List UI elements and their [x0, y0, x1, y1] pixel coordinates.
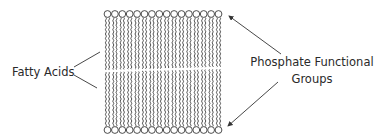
- fatty-acid-tail: [168, 18, 169, 69]
- top-phospholipid: [141, 11, 148, 69]
- fatty-acid-tail: [153, 18, 154, 69]
- phosphate-groups-label-line2: Groups: [291, 72, 332, 86]
- fatty-acid-tail: [138, 18, 139, 70]
- fatty-acid-tail: [202, 70, 203, 127]
- phosphate-head: [141, 127, 148, 134]
- bottom-phospholipid: [171, 70, 178, 133]
- fatty-acid-tail: [179, 70, 180, 126]
- phosphate-head: [112, 127, 119, 134]
- phosphate-head: [112, 11, 119, 18]
- fatty-acid-tail: [120, 18, 121, 70]
- phosphate-head: [178, 11, 185, 18]
- phosphate-head: [163, 11, 170, 18]
- fatty-acid-tail: [172, 18, 173, 69]
- phosphate-head: [208, 127, 215, 134]
- fatty-acid-tail: [165, 18, 166, 69]
- phosphate-head: [141, 11, 148, 18]
- phosphate-head: [149, 127, 156, 134]
- fatty-acid-tail: [205, 18, 206, 68]
- top-phospholipid: [200, 11, 207, 68]
- fatty-acid-tail: [202, 18, 203, 68]
- bottom-phospholipid: [193, 70, 200, 134]
- phosphate-head: [119, 127, 126, 134]
- phosphate-head: [193, 11, 200, 18]
- fatty-acid-tail: [142, 18, 143, 69]
- fatty-acid-tail: [175, 70, 176, 126]
- phosphate-head: [163, 127, 170, 134]
- top-phospholipid: [163, 11, 170, 69]
- top-phospholipid: [126, 11, 133, 70]
- fatty-acid-tail: [150, 71, 151, 127]
- bottom-phospholipid: [178, 70, 185, 133]
- phosphate-head: [171, 11, 178, 18]
- fatty-acid-tail: [160, 71, 161, 127]
- fatty-acid-tail: [116, 18, 117, 70]
- top-phospholipid: [215, 11, 222, 67]
- top-phospholipid: [171, 11, 178, 68]
- phosphate-head: [156, 127, 163, 134]
- phosphate-head: [149, 11, 156, 18]
- phosphate-head: [193, 127, 200, 134]
- fatty-acid-tail: [113, 72, 114, 127]
- fatty-acid-tail: [187, 18, 188, 68]
- bottom-phospholipid: [156, 71, 163, 134]
- fatty-acid-tail: [105, 72, 106, 126]
- fatty-acid-tail: [194, 70, 195, 127]
- fatty-acid-tail: [128, 72, 129, 127]
- fatty-acid-tail: [168, 71, 169, 127]
- phosphate-head: [134, 11, 141, 18]
- top-phospholipid: [186, 11, 193, 68]
- top-phospholipid: [112, 11, 119, 70]
- phosphate-head: [134, 127, 141, 134]
- bottom-phospholipid: [104, 72, 111, 133]
- fatty-acid-tail: [165, 71, 166, 127]
- fatty-acids-pointer-bottom: [74, 75, 97, 88]
- phosphate-head: [104, 11, 111, 18]
- bottom-phospholipid: [119, 72, 126, 134]
- fatty-acid-tail: [153, 71, 154, 127]
- phosphate-head: [178, 127, 185, 134]
- fatty-acids-label: Fatty Acids: [12, 65, 75, 79]
- phosphate-arrow-bottom: [228, 82, 278, 126]
- fatty-acid-tail: [146, 71, 147, 126]
- fatty-acid-tail: [109, 72, 110, 126]
- fatty-acid-tail: [131, 18, 132, 70]
- top-phospholipid: [119, 11, 126, 70]
- phosphate-groups-label-line1: Phosphate Functional: [250, 55, 373, 69]
- fatty-acid-tail: [220, 18, 221, 67]
- fatty-acid-tail: [120, 72, 121, 127]
- top-leaflet: [104, 11, 222, 70]
- bottom-phospholipid: [163, 71, 170, 134]
- phosphate-head: [186, 127, 193, 134]
- fatty-acids-pointer-top: [74, 52, 100, 67]
- phospholipid-bilayer-diagram: Fatty Acids Phosphate Functional Groups: [0, 0, 384, 138]
- fatty-acid-tail: [179, 18, 180, 68]
- top-phospholipid: [134, 11, 141, 69]
- fatty-acid-tail: [183, 18, 184, 68]
- fatty-acid-tail: [135, 18, 136, 70]
- fatty-acid-tail: [205, 70, 206, 127]
- top-phospholipid: [208, 11, 215, 67]
- fatty-acid-tail: [220, 69, 221, 126]
- phosphate-head: [186, 11, 193, 18]
- fatty-acid-tail: [190, 70, 191, 127]
- fatty-acid-tail: [131, 72, 132, 127]
- fatty-acid-tail: [197, 70, 198, 127]
- phosphate-head: [200, 11, 207, 18]
- fatty-acid-tail: [216, 18, 217, 67]
- phosphate-head: [126, 127, 133, 134]
- top-phospholipid: [178, 11, 185, 68]
- bottom-phospholipid: [200, 70, 207, 134]
- bottom-phospholipid: [134, 72, 141, 134]
- fatty-acid-tail: [157, 71, 158, 127]
- fatty-acid-tail: [116, 72, 117, 127]
- bottom-phospholipid: [141, 71, 148, 133]
- fatty-acid-tail: [172, 70, 173, 126]
- fatty-acid-tail: [194, 18, 195, 68]
- fatty-acid-tail: [123, 18, 124, 70]
- phosphate-head: [208, 11, 215, 18]
- fatty-acid-tail: [160, 18, 161, 69]
- fatty-acid-tail: [135, 72, 136, 127]
- phosphate-head: [200, 127, 207, 134]
- fatty-acid-tail: [105, 18, 106, 70]
